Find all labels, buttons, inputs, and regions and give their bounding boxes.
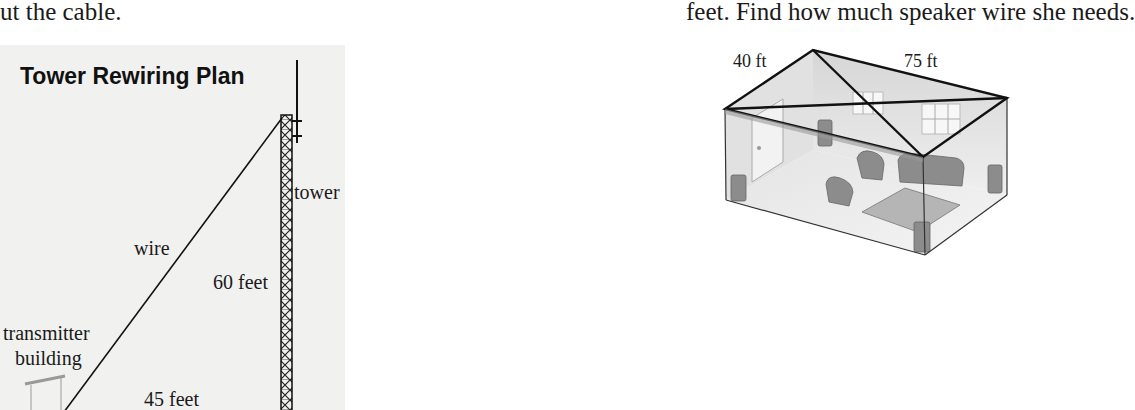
room-length-label: 75 ft — [904, 51, 938, 72]
room-width-label: 40 ft — [733, 51, 767, 72]
